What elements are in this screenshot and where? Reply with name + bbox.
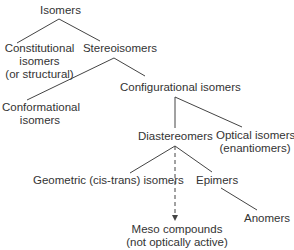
edge-isomers-stereoisomers [59, 19, 100, 41]
edge-epimers-anomers [221, 188, 257, 210]
node-diastereomers: Diastereomers [138, 130, 212, 143]
edge-diast-geometric [130, 146, 175, 173]
edge-diast-epimers [175, 146, 212, 172]
node-optical: Optical isomers (enantiomers) [216, 129, 294, 155]
arrowhead-icon [172, 215, 178, 221]
edge-stereo-configurational [114, 58, 145, 76]
node-geometric: Geometric (cis-trans) isomers [33, 174, 173, 187]
node-isomers: Isomers [40, 4, 80, 17]
edge-config-optical [175, 97, 242, 127]
node-configurational: Configurational isomers [120, 81, 232, 94]
node-constitutional: Constitutional isomers (or structural) [2, 42, 77, 81]
node-epimers: Epimers [196, 174, 238, 187]
edge-isomers-constitutional [17, 19, 59, 43]
node-anomers: Anomers [244, 212, 288, 225]
node-meso: Meso compounds (not optically active) [125, 223, 229, 249]
node-conformational: Conformational isomers [2, 101, 78, 127]
node-stereoisomers: Stereoisomers [80, 42, 160, 55]
